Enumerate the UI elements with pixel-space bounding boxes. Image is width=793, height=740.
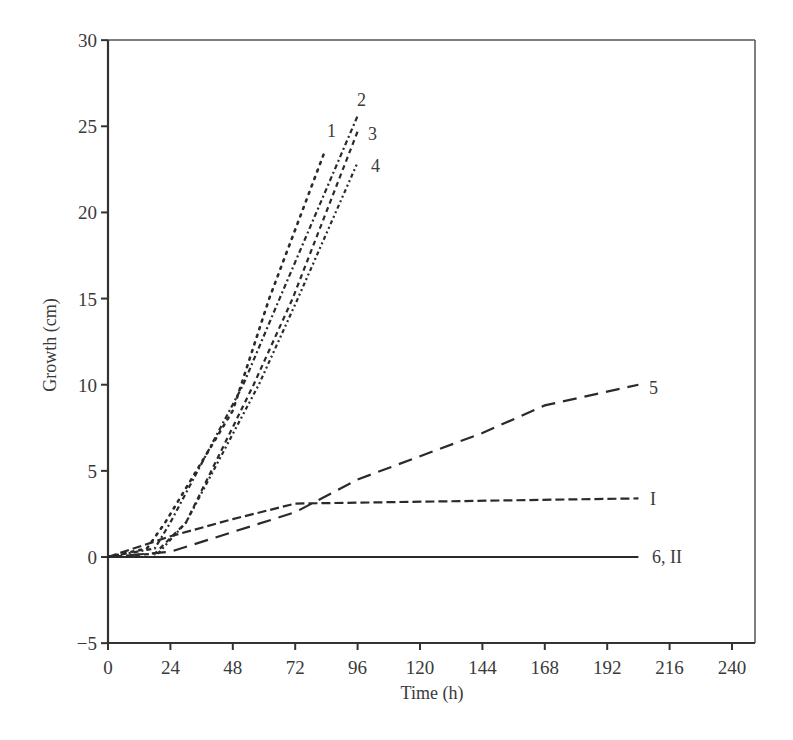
series-lines: [108, 116, 638, 557]
series-line-3: [108, 132, 358, 558]
x-tick-label: 168: [531, 657, 560, 678]
series-label: 2: [357, 90, 366, 110]
y-tick-label: 0: [88, 547, 98, 568]
series-line-4: [108, 163, 358, 558]
series-line-1: [108, 154, 324, 557]
series-line-i: [108, 498, 638, 557]
x-tick-label: 144: [468, 657, 497, 678]
y-tick-label: 10: [78, 375, 97, 396]
x-tick-label: 96: [348, 657, 367, 678]
series-label: 6, II: [652, 547, 682, 567]
series-labels: 12345I6, II: [327, 90, 682, 567]
y-axis-ticks: −5051015202530: [77, 30, 108, 654]
x-tick-label: 216: [655, 657, 684, 678]
series-label: 1: [327, 121, 336, 141]
x-tick-label: 48: [223, 657, 242, 678]
y-tick-label: 25: [78, 116, 97, 137]
x-axis-ticks: 024487296120144168192216240: [103, 643, 746, 678]
x-tick-label: 192: [593, 657, 622, 678]
y-tick-label: 20: [78, 202, 97, 223]
x-axis-title: Time (h): [401, 683, 464, 704]
x-tick-label: 24: [161, 657, 181, 678]
y-tick-label: 30: [78, 30, 97, 51]
series-label: I: [650, 489, 656, 509]
x-tick-label: 120: [406, 657, 435, 678]
y-tick-label: 5: [88, 461, 98, 482]
x-tick-label: 72: [286, 657, 305, 678]
series-label: 5: [649, 378, 658, 398]
x-tick-label: 240: [718, 657, 747, 678]
y-axis-title: Growth (cm): [40, 298, 61, 391]
x-tick-label: 0: [103, 657, 113, 678]
y-tick-label: −5: [77, 633, 97, 654]
series-line-2: [108, 116, 358, 557]
series-label: 4: [371, 156, 380, 176]
growth-chart: 024487296120144168192216240 −50510152025…: [0, 0, 793, 740]
series-label: 3: [368, 124, 377, 144]
y-tick-label: 15: [78, 289, 97, 310]
